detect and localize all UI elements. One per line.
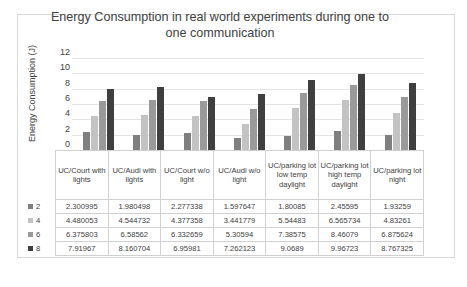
y-tick-label: 8 <box>65 79 70 88</box>
value-cell: 6.565734 <box>318 214 371 228</box>
y-tick-label: 10 <box>60 63 70 72</box>
value-cell: 2.277338 <box>161 200 214 214</box>
value-cell: 8.767325 <box>371 242 424 256</box>
plot-area <box>72 58 424 150</box>
bar <box>200 101 207 150</box>
bar <box>284 136 291 150</box>
bar <box>208 97 215 150</box>
bar <box>91 116 98 150</box>
value-cell: 1.93259 <box>371 200 424 214</box>
y-tick-label: 0 <box>65 140 70 149</box>
bar <box>141 115 148 150</box>
value-cell: 7.91967 <box>56 242 109 256</box>
bar <box>184 133 191 150</box>
value-cell: 6.332659 <box>161 228 214 242</box>
y-tick-label: 12 <box>60 48 70 57</box>
category-header-cell: UC/Court w/o light <box>161 151 214 200</box>
y-axis-ticks: 024681012 <box>48 52 70 156</box>
bar <box>350 85 357 150</box>
table-row: 87.919678.1607046.959817.2621239.06899.9… <box>26 242 424 256</box>
value-cell: 9.0689 <box>266 242 319 256</box>
value-cell: 2.45595 <box>318 200 371 214</box>
y-tick-label: 4 <box>65 109 70 118</box>
bar <box>149 100 156 150</box>
y-tick-label: 2 <box>65 125 70 134</box>
legend-header-cell <box>26 151 56 200</box>
bar <box>334 131 341 150</box>
value-cell: 4.83261 <box>371 214 424 228</box>
value-cell: 6.875624 <box>371 228 424 242</box>
table-body: UC/Court with lightsUC/Audi with lightsU… <box>26 151 424 256</box>
legend-label: 6 <box>36 230 40 240</box>
data-table: UC/Court with lightsUC/Audi with lightsU… <box>26 150 424 256</box>
bar-group <box>173 58 223 150</box>
value-cell: 7.262123 <box>213 242 266 256</box>
category-header-cell: UC/parking lot high temp daylight <box>318 151 371 200</box>
table-row: 22.3009951.9804982.2773381.5976471.80085… <box>26 200 424 214</box>
bar <box>133 135 140 150</box>
value-cell: 4.480053 <box>56 214 109 228</box>
category-header-cell: UC/Audi w/o light <box>213 151 266 200</box>
value-cell: 1.980498 <box>108 200 161 214</box>
bar-group <box>72 58 122 150</box>
bars-container <box>72 58 424 150</box>
bar <box>342 100 349 150</box>
legend-label: 2 <box>36 202 40 212</box>
bar <box>393 113 400 150</box>
bar-group <box>223 58 273 150</box>
bar <box>358 74 365 150</box>
table-header-row: UC/Court with lightsUC/Audi with lightsU… <box>26 151 424 200</box>
legend-swatch-icon <box>28 218 33 223</box>
legend-entry: 2 <box>26 200 56 214</box>
bar <box>308 80 315 150</box>
value-cell: 3.441779 <box>213 214 266 228</box>
legend-swatch-icon <box>28 232 33 237</box>
bar <box>157 87 164 150</box>
value-cell: 2.300995 <box>56 200 109 214</box>
bar <box>99 101 106 150</box>
value-cell: 4.377358 <box>161 214 214 228</box>
bar <box>258 94 265 150</box>
category-header-cell: UC/parking lot low temp daylight <box>266 151 319 200</box>
bar-group <box>273 58 323 150</box>
legend-entry: 6 <box>26 228 56 242</box>
y-axis-title: Energy Consumption (J) <box>27 34 38 154</box>
value-cell: 1.80085 <box>266 200 319 214</box>
bar <box>250 109 257 150</box>
bar <box>242 124 249 150</box>
bar-group <box>122 58 172 150</box>
value-cell: 5.30594 <box>213 228 266 242</box>
bar-group <box>374 58 424 150</box>
value-cell: 8.46079 <box>318 228 371 242</box>
legend-swatch-icon <box>28 246 33 251</box>
category-header-cell: UC/Court with lights <box>56 151 109 200</box>
value-cell: 6.58562 <box>108 228 161 242</box>
table-row: 66.3758036.585626.3326595.305947.385758.… <box>26 228 424 242</box>
bar <box>192 116 199 150</box>
value-cell: 7.38575 <box>266 228 319 242</box>
value-cell: 5.54483 <box>266 214 319 228</box>
legend-entry: 4 <box>26 214 56 228</box>
bar <box>401 97 408 150</box>
category-header-cell: UC/parking lot night <box>371 151 424 200</box>
bar <box>300 93 307 150</box>
value-cell: 9.96723 <box>318 242 371 256</box>
bar <box>107 89 114 150</box>
value-cell: 4.544732 <box>108 214 161 228</box>
bar-group <box>323 58 373 150</box>
bar <box>83 132 90 150</box>
legend-swatch-icon <box>28 204 33 209</box>
bar <box>234 138 241 150</box>
category-header-cell: UC/Audi with lights <box>108 151 161 200</box>
value-cell: 1.597647 <box>213 200 266 214</box>
chart-title: Energy Consumption in real world experim… <box>40 9 400 41</box>
bar <box>385 135 392 150</box>
bar <box>409 83 416 150</box>
value-cell: 6.375803 <box>56 228 109 242</box>
y-tick-label: 6 <box>65 94 70 103</box>
bar <box>292 108 299 151</box>
table-row: 44.4800534.5447324.3773583.4417795.54483… <box>26 214 424 228</box>
legend-entry: 8 <box>26 242 56 256</box>
legend-label: 4 <box>36 216 40 226</box>
value-cell: 8.160704 <box>108 242 161 256</box>
